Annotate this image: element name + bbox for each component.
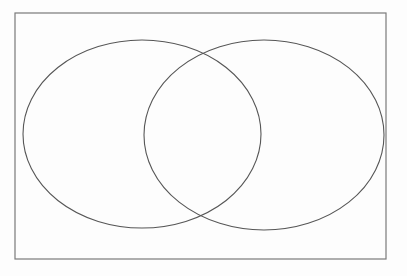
scanned-page — [0, 0, 407, 276]
venn-diagram — [0, 0, 407, 276]
right-set-ellipse — [144, 40, 384, 230]
left-set-ellipse — [23, 40, 261, 228]
universe-frame — [15, 13, 386, 259]
